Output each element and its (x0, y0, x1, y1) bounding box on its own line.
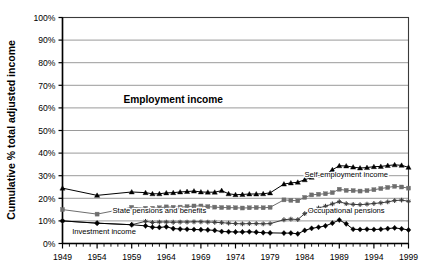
series-marker (240, 206, 244, 210)
series-marker (337, 187, 341, 191)
series-marker (61, 208, 65, 212)
series-marker (220, 206, 224, 210)
series-marker (365, 189, 369, 193)
series-marker (351, 189, 355, 193)
series-marker (261, 206, 265, 210)
series-marker (344, 188, 348, 192)
y-tick-label: 10% (38, 216, 56, 226)
x-tick-label: 1964 (157, 252, 176, 262)
series-marker (234, 206, 238, 210)
series-marker (303, 195, 307, 199)
series-marker (358, 189, 362, 193)
series-label-occupational-pensions: Occupational pensions (308, 206, 385, 215)
series-marker (310, 193, 314, 197)
series-marker (282, 198, 286, 202)
y-tick-label: 0% (43, 239, 56, 249)
y-tick-label: 90% (38, 35, 56, 45)
y-tick-label: 50% (38, 126, 56, 136)
series-label-state-pensions-and-benefits: State pensions and benefits (113, 206, 207, 215)
series-marker (317, 192, 321, 196)
series-marker (330, 191, 334, 195)
series-marker (393, 184, 397, 188)
series-marker (386, 185, 390, 189)
x-tick-label: 1959 (122, 252, 141, 262)
series-marker (289, 198, 293, 202)
x-tick-label: 1954 (88, 252, 107, 262)
series-marker (372, 188, 376, 192)
series-marker (227, 206, 231, 210)
x-tick-label: 1999 (399, 252, 418, 262)
series-marker (247, 206, 251, 210)
chart-container: 0%10%20%30%40%50%60%70%80%90%100% 194919… (0, 0, 431, 270)
series-marker (379, 187, 383, 191)
series-marker (323, 192, 327, 196)
series-marker (95, 212, 99, 216)
series-marker (296, 199, 300, 203)
y-axis-title: Cumulative % total adjusted income (5, 40, 17, 220)
series-marker (268, 205, 272, 209)
x-tick-label: 1994 (364, 252, 383, 262)
income-composition-line-chart: 0%10%20%30%40%50%60%70%80%90%100% 194919… (0, 0, 431, 270)
x-tick-label: 1989 (330, 252, 349, 262)
series-marker (400, 185, 404, 189)
y-tick-label: 30% (38, 171, 56, 181)
x-tick-label: 1979 (261, 252, 280, 262)
x-tick-label: 1969 (191, 252, 210, 262)
series-marker (206, 205, 210, 209)
y-tick-label: 40% (38, 148, 56, 158)
chart-annotation-employment-income: Employment income (123, 94, 223, 105)
series-marker (407, 186, 411, 190)
x-tick-label: 1974 (226, 252, 245, 262)
x-tick-label: 1984 (295, 252, 314, 262)
y-axis-title-text: Cumulative % total adjusted income (5, 40, 17, 220)
series-label-self-employment-income: Self-employment income (304, 170, 388, 179)
y-tick-label: 20% (38, 194, 56, 204)
series-marker (213, 205, 217, 209)
series-marker (254, 206, 258, 210)
y-tick-label: 100% (34, 13, 56, 23)
y-tick-label: 80% (38, 58, 56, 68)
y-tick-label: 60% (38, 103, 56, 113)
series-label-investment-income: Investment income (72, 227, 136, 236)
y-tick-label: 70% (38, 81, 56, 91)
x-tick-label: 1949 (53, 252, 72, 262)
